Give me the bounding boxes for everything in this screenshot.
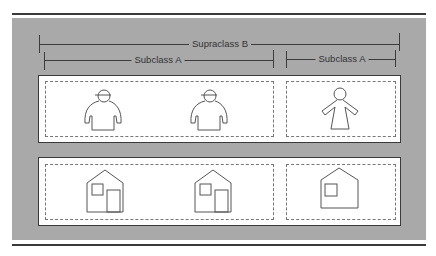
top-rule (12, 13, 426, 15)
subclass-left-end-tick (273, 50, 274, 68)
houses-subclass-left-group (45, 164, 274, 220)
subclass-left-label: Subclass A (132, 55, 185, 65)
house-with-door-icon (194, 168, 234, 214)
subclass-right-label: Subclass A (316, 54, 369, 64)
subclass-right-end-tick (395, 50, 396, 67)
supraclass-label: Supraclass B (189, 39, 251, 49)
house-without-door-icon (320, 165, 360, 211)
subclass-left-start-tick (44, 52, 45, 70)
house-with-door-icon (86, 168, 126, 214)
male-person-icon (186, 86, 236, 136)
bottom-rule (12, 244, 426, 246)
supraclass-right-tick (399, 33, 400, 51)
male-person-icon (80, 86, 130, 136)
female-person-icon (318, 84, 362, 134)
